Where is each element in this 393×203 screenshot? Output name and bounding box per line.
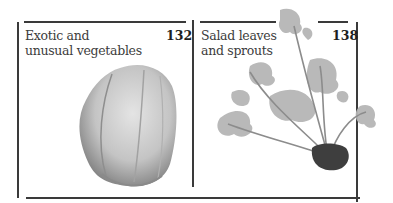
top-rule-left (24, 21, 186, 23)
chayote-icon (72, 62, 182, 192)
title-line-2: unusual vegetables (25, 43, 142, 58)
left-border-rule (17, 22, 19, 198)
salad-leaves-icon (210, 6, 385, 174)
title-line-1: Exotic and (25, 28, 142, 43)
panel-title: Exotic and unusual vegetables (25, 28, 142, 58)
page-number[interactable]: 132 (166, 28, 192, 43)
bottom-rule (26, 197, 360, 199)
panel-divider (192, 20, 194, 187)
